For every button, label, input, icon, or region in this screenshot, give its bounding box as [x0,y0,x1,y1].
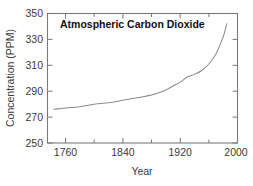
x-axis-title: Year [131,165,153,177]
x-tick-label: 1840 [111,146,135,158]
chart-title: Atmospheric Carbon Dioxide [60,18,205,30]
x-tick-label: 1760 [54,146,78,158]
y-axis-title: Concentration (PPM) [4,29,16,127]
y-tick-label: 350 [25,7,43,19]
x-tick-label: 1920 [169,146,193,158]
y-tick-label: 250 [25,137,43,149]
y-tick-label: 270 [25,111,43,123]
co2-line-chart: 250 270 290 310 330 350 1760 1840 1920 2… [0,0,253,186]
chart-figure: 250 270 290 310 330 350 1760 1840 1920 2… [0,0,253,186]
y-tick-label: 330 [25,33,43,45]
y-tick-label: 290 [25,85,43,97]
y-tick-label: 310 [25,59,43,71]
x-tick-label: 2000 [224,146,248,158]
